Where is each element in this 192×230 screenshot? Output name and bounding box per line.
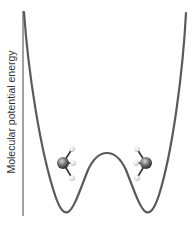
hydrogen-atom: [69, 146, 75, 152]
double-well-potential-diagram: Molecular potential energy: [0, 0, 192, 230]
right-ammonia-molecule: [133, 146, 152, 181]
hydrogen-atom: [134, 146, 140, 152]
left-ammonia-molecule: [57, 146, 76, 181]
nitrogen-atom: [140, 157, 152, 169]
hydrogen-atom: [70, 160, 76, 166]
nitrogen-atom: [57, 157, 69, 169]
hydrogen-atom: [69, 175, 75, 181]
hydrogen-atom: [133, 160, 139, 166]
hydrogen-atom: [134, 175, 140, 181]
potential-energy-curve: [24, 12, 186, 212]
